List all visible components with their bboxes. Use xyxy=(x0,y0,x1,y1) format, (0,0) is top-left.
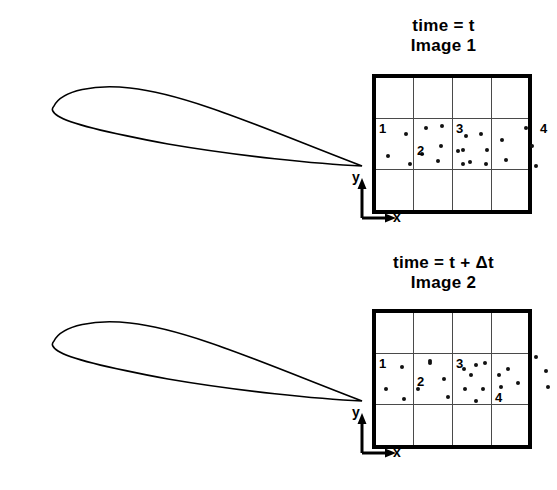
axis-label-y: y xyxy=(352,405,360,419)
interrogation-cell: 3 xyxy=(453,118,491,169)
particle-dot xyxy=(483,361,487,365)
interrogation-cell: 4 xyxy=(492,118,528,169)
particle-dot xyxy=(516,381,520,385)
interrogation-cell-number: 2 xyxy=(417,144,424,157)
particle-dot xyxy=(436,159,440,163)
caption-image-2: time = t + Δt Image 2 xyxy=(330,253,557,293)
particle-dot xyxy=(428,361,432,365)
particle-dot xyxy=(546,385,550,389)
caption-image-1: time = t Image 1 xyxy=(330,16,557,56)
airfoil-shape-bottom xyxy=(18,313,368,413)
particle-dot xyxy=(484,162,488,166)
airfoil-shape-top xyxy=(18,78,368,178)
airfoil-outline xyxy=(52,322,362,401)
caption-image-label: Image 2 xyxy=(330,273,557,293)
interrogation-cell-number: 1 xyxy=(379,357,386,370)
interrogation-cell-number: 4 xyxy=(495,391,502,404)
interrogation-cell: 1 xyxy=(376,118,413,169)
interrogation-cell-number: 4 xyxy=(540,122,547,135)
caption-image-label: Image 1 xyxy=(330,36,557,56)
particle-dot xyxy=(408,162,412,166)
interrogation-cell: 1 xyxy=(376,353,413,404)
particle-dot xyxy=(446,395,450,399)
particle-dot xyxy=(404,132,408,136)
particle-dot xyxy=(463,387,467,391)
particle-dot xyxy=(402,397,406,401)
particle-dot xyxy=(442,377,446,381)
particle-dot xyxy=(469,373,473,377)
particle-dot xyxy=(504,158,508,162)
particle-dot xyxy=(506,367,510,371)
interrogation-cell: 2 xyxy=(414,353,452,404)
interrogation-cell-number: 2 xyxy=(417,375,424,388)
axis-label-x: x xyxy=(393,210,401,224)
particle-dot xyxy=(384,387,388,391)
piv-panel-time-t-plus-dt: time = t + Δt Image 2 1 2 3 4 xyxy=(0,245,557,490)
axis-indicator-2: y x xyxy=(348,405,408,463)
interrogation-cell-number: 1 xyxy=(379,122,386,135)
airfoil-outline xyxy=(52,87,362,166)
interrogation-cell-number: 3 xyxy=(456,122,463,135)
particle-dot xyxy=(485,148,489,152)
particle-dot xyxy=(524,126,528,130)
interrogation-cell: 2 xyxy=(414,118,452,169)
particle-dot xyxy=(481,387,485,391)
particle-dot xyxy=(530,144,534,148)
axis-label-y: y xyxy=(352,170,360,184)
particle-dot xyxy=(534,164,538,168)
particle-dot xyxy=(424,126,428,130)
particle-dot xyxy=(479,132,483,136)
interrogation-cell: 3 xyxy=(453,353,491,404)
particle-dot xyxy=(534,355,538,359)
piv-panel-time-t: time = t Image 1 1 2 3 4 xyxy=(0,0,557,245)
axis-label-x: x xyxy=(393,445,401,459)
interrogation-cell: 4 xyxy=(492,353,528,404)
interrogation-cell-number: 3 xyxy=(456,357,463,370)
particle-dot xyxy=(439,144,443,148)
caption-time-label: time = t xyxy=(330,16,557,36)
particle-dot xyxy=(544,369,548,373)
particle-dot xyxy=(400,365,404,369)
particle-dot xyxy=(461,162,465,166)
caption-time-label: time = t + Δt xyxy=(330,253,557,273)
axis-indicator-1: y x xyxy=(348,170,408,228)
particle-dot xyxy=(461,148,465,152)
particle-dot xyxy=(500,138,504,142)
particle-dot xyxy=(386,154,390,158)
diagram-canvas: time = t Image 1 1 2 3 4 xyxy=(0,0,557,490)
